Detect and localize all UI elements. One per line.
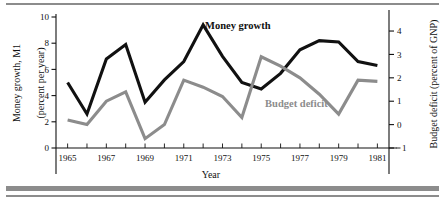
- x-axis-tick-label: 1981: [368, 153, 386, 163]
- y-axis-left-title: Money growth, M1: [11, 44, 22, 122]
- y-axis-right-tick-label: 4: [397, 26, 402, 36]
- series-line-money-growth: [68, 25, 378, 114]
- bottom-rule-thick: [6, 186, 439, 191]
- y-axis-left-tick-label: 0: [45, 143, 50, 153]
- x-axis-tick-label: 1971: [175, 153, 193, 163]
- y-axis-right-tick-label: 1: [397, 96, 402, 106]
- series-layer: [68, 25, 378, 139]
- x-axis-tick-label: 1967: [97, 153, 116, 163]
- y-axis-right-title: Budget deficit (percent of GNP): [428, 20, 440, 149]
- series-label-money-growth: Money growth: [205, 20, 271, 31]
- y-axis-left-title-sub: (percent per year): [35, 47, 47, 118]
- x-axis-tick-label: 1965: [59, 153, 78, 163]
- x-axis-tick-label: 1977: [291, 153, 310, 163]
- y-axis-left-tick-label: 8: [45, 38, 50, 48]
- series-line-budget-deficit: [68, 57, 378, 139]
- y-axis-right-tick-label: 2: [397, 73, 402, 83]
- x-axis-tick-label: 1979: [330, 153, 349, 163]
- series-label-budget-deficit: Budget deficit: [265, 98, 328, 109]
- bottom-rule-thin: [6, 195, 439, 197]
- y-axis-right-tick-label: 0: [397, 120, 402, 130]
- x-axis-tick-label: 1973: [214, 153, 233, 163]
- x-axis-tick-label: 1969: [136, 153, 155, 163]
- y-axis-right-tick-label: 3: [397, 50, 402, 60]
- line-chart-plot: 0246810101234196519671969197119731975197…: [0, 0, 445, 201]
- y-axis-left-tick-label: 10: [40, 12, 50, 22]
- x-axis-title: Year: [202, 169, 221, 180]
- chart-figure: 0246810101234196519671969197119731975197…: [0, 0, 445, 201]
- y-axis-right-tick-label: 1: [402, 143, 407, 153]
- x-axis-tick-label: 1975: [252, 153, 271, 163]
